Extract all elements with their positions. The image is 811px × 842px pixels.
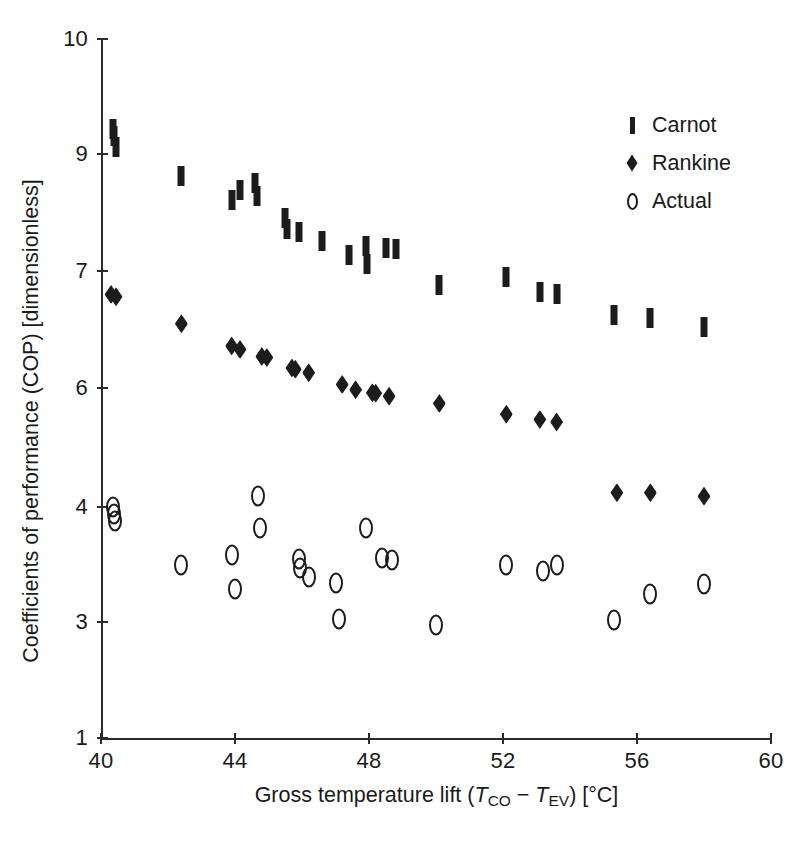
legend-item-rankine: Rankine xyxy=(612,144,731,182)
legend-label-rankine: Rankine xyxy=(652,151,731,176)
x-tick-label-60: 60 xyxy=(759,748,784,774)
legend-label-actual: Actual xyxy=(652,189,712,214)
data-point-actual xyxy=(385,549,399,570)
data-point-actual xyxy=(499,554,513,575)
y-axis-line xyxy=(101,39,103,739)
data-point-actual xyxy=(174,554,188,575)
data-point-rankine xyxy=(302,363,315,382)
x-axis-title-suffix: ) [°C] xyxy=(569,783,618,807)
data-point-carnot xyxy=(228,190,235,210)
x-axis-var-tev: T xyxy=(535,783,548,807)
x-axis-var-tco-subscript: CO xyxy=(488,792,511,809)
y-tick-label-9: 9 xyxy=(76,141,88,167)
x-axis-var-tco: T xyxy=(474,783,487,807)
data-point-rankine xyxy=(175,314,188,333)
data-point-rankine xyxy=(433,394,446,413)
legend-marker-vertical-bar-icon xyxy=(612,117,652,134)
y-tick-label-7: 7 xyxy=(76,258,88,284)
x-tick-52 xyxy=(502,733,504,744)
y-tick-9 xyxy=(97,153,108,155)
data-point-rankine xyxy=(383,387,396,406)
data-point-carnot xyxy=(364,254,371,274)
data-point-rankine xyxy=(500,405,513,424)
data-point-actual xyxy=(697,574,711,595)
data-point-carnot xyxy=(319,231,326,251)
y-tick-3 xyxy=(97,621,108,623)
data-point-actual xyxy=(359,517,373,538)
data-point-actual xyxy=(228,578,242,599)
data-point-rankine xyxy=(550,412,563,431)
legend-label-carnot: Carnot xyxy=(652,113,717,138)
data-point-carnot xyxy=(295,222,302,242)
data-point-rankine xyxy=(610,483,623,502)
legend-item-carnot: Carnot xyxy=(612,106,731,144)
data-point-carnot xyxy=(610,305,617,325)
x-tick-label-44: 44 xyxy=(223,748,248,774)
legend-marker-open-circle-icon xyxy=(612,193,652,210)
data-point-actual xyxy=(253,517,267,538)
x-axis-minus-sign: − xyxy=(511,783,536,807)
y-tick-label-6: 6 xyxy=(76,375,88,401)
data-point-rankine xyxy=(349,380,362,399)
data-point-actual xyxy=(251,486,265,507)
y-tick-label-1: 1 xyxy=(76,725,88,751)
data-point-rankine xyxy=(336,375,349,394)
x-tick-label-40: 40 xyxy=(89,748,114,774)
data-point-carnot xyxy=(701,317,708,337)
vertical-bar-icon xyxy=(630,117,635,134)
data-point-rankine xyxy=(644,483,657,502)
data-point-carnot xyxy=(237,180,244,200)
y-axis-title-container: Coefficients of performance (COP) [dimen… xyxy=(14,0,48,842)
y-tick-6 xyxy=(97,387,108,389)
y-tick-label-10: 10 xyxy=(63,26,88,52)
y-tick-1 xyxy=(97,737,108,739)
x-tick-48 xyxy=(368,733,370,744)
x-axis-title: Gross temperature lift (TCO − TEV) [°C] xyxy=(101,783,772,810)
data-point-actual xyxy=(329,572,343,593)
x-tick-40 xyxy=(100,733,102,744)
data-point-actual xyxy=(536,561,550,582)
data-point-carnot xyxy=(178,166,185,186)
x-tick-label-52: 52 xyxy=(491,748,516,774)
data-point-actual xyxy=(302,567,316,588)
data-point-carnot xyxy=(392,239,399,259)
data-point-carnot xyxy=(283,219,290,239)
data-point-actual xyxy=(607,609,621,630)
data-point-carnot xyxy=(436,275,443,295)
y-tick-10 xyxy=(97,38,108,40)
x-tick-label-48: 48 xyxy=(357,748,382,774)
x-tick-44 xyxy=(234,733,236,744)
y-tick-label-3: 3 xyxy=(76,609,88,635)
x-tick-56 xyxy=(636,733,638,744)
data-point-carnot xyxy=(503,267,510,287)
legend-item-actual: Actual xyxy=(612,182,731,220)
x-tick-label-56: 56 xyxy=(625,748,650,774)
data-point-carnot xyxy=(536,282,543,302)
data-point-actual xyxy=(332,608,346,629)
diamond-icon xyxy=(627,155,638,172)
data-point-carnot xyxy=(345,245,352,265)
y-tick-label-4: 4 xyxy=(76,494,88,520)
data-point-carnot xyxy=(253,186,260,206)
data-point-actual xyxy=(550,554,564,575)
chart-legend: CarnotRankineActual xyxy=(612,106,731,220)
data-point-actual xyxy=(643,584,657,605)
chart-figure: 10976431 404448525660 Coefficients of pe… xyxy=(0,0,811,842)
y-tick-7 xyxy=(97,270,108,272)
data-point-rankine xyxy=(533,410,546,429)
data-point-actual xyxy=(429,614,443,635)
x-axis-var-tev-subscript: EV xyxy=(548,792,569,809)
legend-marker-diamond-icon xyxy=(612,155,652,172)
data-point-rankine xyxy=(698,487,711,506)
data-point-carnot xyxy=(553,284,560,304)
x-tick-60 xyxy=(770,733,772,744)
data-point-actual xyxy=(225,545,239,566)
data-point-carnot xyxy=(113,137,120,157)
data-point-carnot xyxy=(647,308,654,328)
data-point-carnot xyxy=(382,238,389,258)
x-axis-title-prefix: Gross temperature lift ( xyxy=(255,783,475,807)
y-axis-title: Coefficients of performance (COP) [dimen… xyxy=(19,179,44,663)
x-axis-line xyxy=(101,738,772,740)
open-circle-icon xyxy=(627,193,638,210)
data-point-actual xyxy=(108,510,122,531)
